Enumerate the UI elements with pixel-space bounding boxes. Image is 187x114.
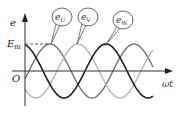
three-phase-waveform-diagram: e ωt O Em eU eV eW bbox=[0, 0, 187, 114]
callout-e-v: eV bbox=[77, 8, 98, 44]
y-axis-label: e bbox=[10, 17, 16, 28]
amplitude-label: Em bbox=[6, 38, 21, 51]
y-axis-arrow-icon bbox=[22, 13, 28, 22]
x-axis-arrow-icon bbox=[165, 68, 173, 74]
callout-e-w: eW bbox=[105, 11, 133, 46]
x-axis-label: ωt bbox=[162, 79, 173, 89]
callout-e-u: eU bbox=[51, 8, 72, 44]
origin-label: O bbox=[12, 73, 20, 84]
